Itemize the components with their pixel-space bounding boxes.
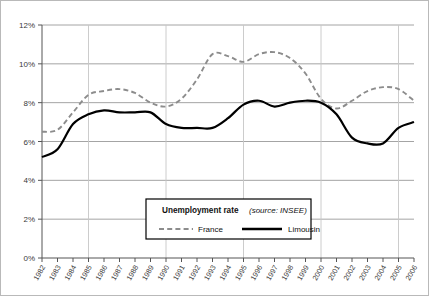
chart-container: 0%2%4%6%8%10%12% 19821983198419851986198… [0,0,429,296]
y-tick-label: 8% [23,99,35,108]
unemployment-rate-line-chart: 0%2%4%6%8%10%12% 19821983198419851986198… [0,0,429,296]
legend-label-france: France [198,225,223,234]
y-tick-label: 2% [23,215,35,224]
y-tick-label: 10% [19,60,35,69]
legend-border [146,199,311,239]
y-tick-label: 6% [23,138,35,147]
legend-source: (source: INSEE) [249,206,307,215]
y-tick-label: 12% [19,21,35,30]
chart-outer-border [1,1,429,296]
legend-title: Unemployment rate [162,206,239,215]
y-tick-label: 0% [23,254,35,263]
chart-legend: Unemployment rate (source: INSEE) France… [146,199,320,239]
y-tick-label: 4% [23,176,35,185]
legend-label-limousin: Limousin [288,225,320,234]
